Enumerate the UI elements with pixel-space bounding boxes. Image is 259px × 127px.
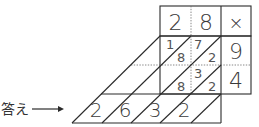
times-icon: × xyxy=(228,12,243,33)
right-arrow-icon xyxy=(32,106,64,112)
cell-1-1-ones: 2 xyxy=(208,79,216,94)
answer-digit-3: 3 xyxy=(149,98,162,122)
answer-digit-2: 6 xyxy=(119,98,132,122)
diagonal-4 xyxy=(191,94,221,123)
cell-1-1-tens: 3 xyxy=(194,66,202,81)
cell-1-0-ones: 8 xyxy=(177,79,185,94)
cell-0-1-tens: 7 xyxy=(194,37,202,52)
answer-digit-4: 2 xyxy=(178,98,191,122)
multiplier-digit-ones: 4 xyxy=(229,68,243,93)
cell-0-0-tens: 1 xyxy=(166,37,174,52)
multiplier-digit-tens: 9 xyxy=(229,39,243,64)
answer-digit-1: 2 xyxy=(90,98,103,122)
cell-0-0-ones: 8 xyxy=(177,50,185,65)
lattice-multiplication-diagram: 2 8 × 1 8 7 2 8 3 2 9 4 2 6 3 2 xyxy=(0,0,259,127)
multiplicand-digit-ones: 8 xyxy=(199,10,213,35)
answer-label: 答え xyxy=(1,101,29,117)
header-row: 2 8 × xyxy=(160,6,251,36)
cell-0-1-ones: 2 xyxy=(208,50,216,65)
multiplicand-digit-tens: 2 xyxy=(169,10,183,35)
